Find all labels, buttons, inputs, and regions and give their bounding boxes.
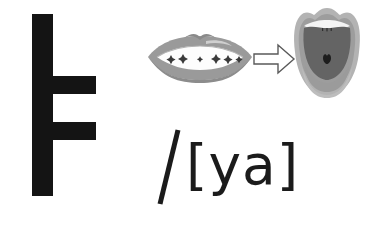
hangul-lower-branch-stroke <box>51 122 96 140</box>
hangul-upper-branch-stroke <box>51 76 96 94</box>
phonetic-slash-icon: / <box>152 128 188 206</box>
right-arrow-icon <box>252 42 296 76</box>
phonetic-row: / [ya] <box>152 128 332 208</box>
hangul-letter-ya: ㅟ <box>30 14 100 196</box>
lip-shape-icon <box>144 28 256 86</box>
phonetic-transcription-text: [ya] <box>186 134 299 196</box>
open-mouth-icon <box>292 4 362 102</box>
hangul-vertical-stem-stroke <box>32 14 53 196</box>
pronunciation-card: ㅟ <box>0 0 386 225</box>
